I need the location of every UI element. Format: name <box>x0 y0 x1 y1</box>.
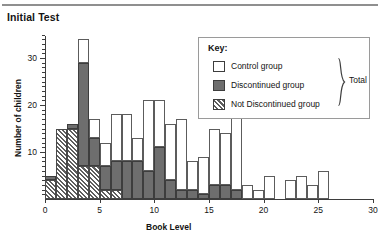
bar-segment-control <box>111 114 122 161</box>
bar-segment-control <box>242 185 253 199</box>
bar-segment-disc <box>143 171 154 199</box>
filled-square-icon <box>213 80 225 91</box>
bar-segment-control <box>100 143 111 167</box>
histogram-bar <box>78 39 89 199</box>
x-axis-tick-label: 10 <box>141 205 167 215</box>
x-axis-tick-label: 20 <box>251 205 277 215</box>
bar-segment-control <box>132 138 143 162</box>
x-axis-tick-label: 5 <box>87 205 113 215</box>
x-axis-tick <box>318 199 319 203</box>
histogram-bar <box>154 100 165 199</box>
histogram-bar <box>67 124 78 199</box>
x-axis-tick <box>373 199 374 203</box>
bar-segment-control <box>264 176 275 200</box>
histogram-bar <box>122 114 133 199</box>
bar-segment-notdisc <box>89 166 100 199</box>
y-axis-minor-tick <box>42 67 45 68</box>
y-axis-minor-tick <box>42 185 45 186</box>
bar-segment-disc <box>89 138 100 166</box>
bar-segment-disc <box>111 161 122 189</box>
bar-segment-control <box>285 180 296 199</box>
y-axis-tick <box>40 152 45 153</box>
bar-segment-control <box>296 176 307 200</box>
chart-legend: Key: Control group Discontinued group No… <box>198 37 370 119</box>
y-axis-tick <box>40 105 45 106</box>
legend-item-label: Not Discontinued group <box>231 99 320 109</box>
histogram-bar <box>296 176 307 200</box>
bar-segment-control <box>231 114 242 189</box>
bar-segment-disc <box>220 185 231 199</box>
x-axis-tick <box>100 199 101 203</box>
bar-segment-disc <box>165 180 176 199</box>
bar-segment-notdisc <box>78 166 89 199</box>
y-axis-minor-tick <box>42 35 45 36</box>
histogram-bar <box>111 114 122 199</box>
bar-segment-notdisc <box>67 129 78 200</box>
legend-item-label: Control group <box>231 61 283 71</box>
y-axis-minor-tick <box>42 157 45 158</box>
bar-segment-disc <box>231 190 242 199</box>
histogram-bar <box>165 124 176 199</box>
x-axis-tick-label: 0 <box>32 205 58 215</box>
legend-title: Key: <box>208 43 228 53</box>
y-axis-minor-tick <box>42 190 45 191</box>
bar-segment-disc <box>122 161 133 199</box>
bar-segment-control <box>318 171 329 199</box>
histogram-bar <box>56 129 67 200</box>
histogram-bar <box>89 119 100 199</box>
histogram-bar <box>100 143 111 199</box>
y-axis-minor-tick <box>42 100 45 101</box>
bar-segment-disc <box>187 190 198 199</box>
y-axis-minor-tick <box>42 44 45 45</box>
bar-segment-control <box>187 161 198 189</box>
bar-segment-notdisc <box>45 180 56 199</box>
histogram-bar <box>176 119 187 199</box>
bar-segment-control <box>154 100 165 147</box>
histogram-bar <box>143 100 154 199</box>
y-axis-tick <box>40 58 45 59</box>
bar-segment-disc <box>100 166 111 190</box>
x-axis-tick <box>45 199 46 203</box>
histogram-bar <box>220 133 231 199</box>
histogram-bar <box>242 185 253 199</box>
bar-segment-control <box>122 114 133 161</box>
y-axis-minor-tick <box>42 91 45 92</box>
legend-total-label: Total <box>349 75 367 85</box>
bar-segment-disc <box>78 63 89 166</box>
y-axis-minor-tick <box>42 114 45 115</box>
bar-segment-notdisc <box>100 190 111 199</box>
bar-segment-disc <box>154 147 165 199</box>
x-axis-tick-label: 15 <box>196 205 222 215</box>
bar-segment-disc <box>209 185 220 199</box>
histogram-bar <box>45 176 56 200</box>
x-axis-tick <box>154 199 155 203</box>
y-axis-minor-tick <box>42 72 45 73</box>
y-axis-minor-tick <box>42 39 45 40</box>
bar-segment-control <box>89 119 100 138</box>
bar-segment-disc <box>176 190 187 199</box>
bar-segment-control <box>198 157 209 195</box>
y-axis-minor-tick <box>42 129 45 130</box>
bar-segment-control <box>176 119 187 190</box>
x-axis-tick-label: 30 <box>360 205 380 215</box>
curly-brace-icon <box>337 58 346 106</box>
chart-page: Initial Test 051015202530102030 Book Lev… <box>0 0 380 246</box>
histogram-bar <box>209 129 220 200</box>
histogram-bar <box>285 180 296 199</box>
histogram-bar <box>198 157 209 199</box>
white-square-icon <box>213 61 225 72</box>
y-axis-minor-tick <box>42 147 45 148</box>
y-axis-minor-tick <box>42 138 45 139</box>
histogram-bar <box>253 190 264 199</box>
y-axis-minor-tick <box>42 180 45 181</box>
histogram-bar <box>231 114 242 199</box>
y-axis-minor-tick <box>42 133 45 134</box>
y-axis-minor-tick <box>42 124 45 125</box>
hatched-square-icon <box>213 99 225 110</box>
y-axis-minor-tick <box>42 143 45 144</box>
bar-segment-disc <box>132 161 143 199</box>
x-axis-tick <box>264 199 265 203</box>
y-axis-minor-tick <box>42 63 45 64</box>
y-axis-minor-tick <box>42 171 45 172</box>
bar-segment-disc <box>45 176 56 181</box>
